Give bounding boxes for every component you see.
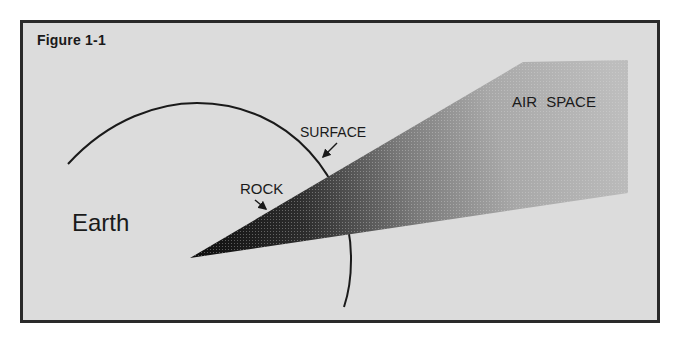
rock-label: ROCK (240, 180, 283, 197)
air-space-label: AIR SPACE (512, 93, 596, 110)
diagram-canvas (0, 0, 675, 337)
rock-arrow-icon (255, 200, 266, 209)
signal-wedge-halftone (190, 60, 628, 258)
surface-arrow-icon (323, 143, 337, 157)
earth-label: Earth (72, 209, 129, 237)
surface-label: SURFACE (300, 124, 366, 140)
